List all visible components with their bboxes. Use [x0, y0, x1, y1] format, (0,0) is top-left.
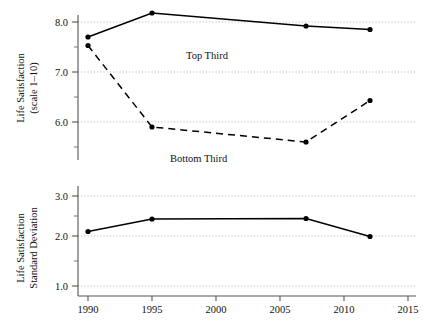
top-panel-y-axis-title-line1: Life Satisfaction [15, 52, 26, 122]
data-point [303, 139, 308, 144]
top-panel-ytick-label-6: 6.0 [55, 117, 68, 128]
chart-figure: 8.0 7.0 6.0 Life Satisfaction (scale 1–1… [0, 0, 441, 325]
data-point [85, 229, 90, 234]
xtick-label-2010: 2010 [334, 304, 355, 315]
data-point [149, 10, 154, 15]
data-point [303, 23, 308, 28]
data-point [149, 124, 154, 129]
xtick-label-2000: 2000 [206, 304, 227, 315]
bottom-panel-ytick-label-3: 3.0 [55, 191, 68, 202]
data-point [367, 234, 372, 239]
xtick-label-1995: 1995 [142, 304, 163, 315]
series-label-bottom-third: Bottom Third [170, 153, 228, 164]
data-point [303, 216, 308, 221]
top-panel-ytick-label-7: 7.0 [55, 67, 68, 78]
top-panel-y-axis-title-line2: (scale 1–10) [28, 62, 40, 114]
bottom-panel-ytick-label-1: 1.0 [55, 281, 68, 292]
xtick-label-2005: 2005 [270, 304, 291, 315]
bottom-panel-y-axis-title-line1: Life Satisfaction [15, 212, 26, 282]
data-point [85, 43, 90, 48]
data-point [85, 34, 90, 39]
data-point [367, 98, 372, 103]
data-point [149, 216, 154, 221]
top-panel-ytick-label-8: 8.0 [55, 17, 68, 28]
data-point [367, 27, 372, 32]
chart-canvas: 8.0 7.0 6.0 Life Satisfaction (scale 1–1… [0, 0, 441, 325]
bottom-panel-ytick-label-2: 2.0 [55, 231, 68, 242]
xtick-label-2015: 2015 [398, 304, 419, 315]
xtick-label-1990: 1990 [78, 304, 99, 315]
bottom-panel-y-axis-title-line2: Standard Deviation [28, 207, 39, 289]
series-label-top-third: Top Third [186, 50, 229, 61]
